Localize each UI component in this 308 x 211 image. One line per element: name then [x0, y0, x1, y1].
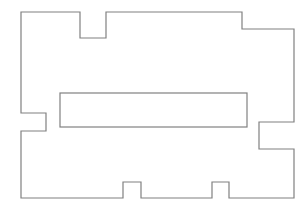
inner-rectangle-outline [60, 93, 247, 127]
outline-diagram [0, 0, 308, 211]
diagram-canvas [0, 0, 308, 211]
outer-boundary-outline [21, 12, 294, 198]
